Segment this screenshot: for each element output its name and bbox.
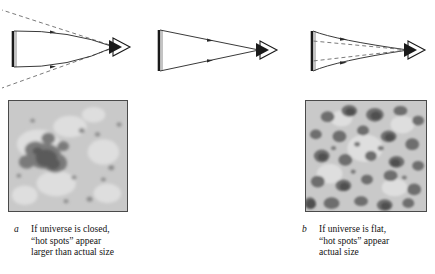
source-bar bbox=[312, 31, 315, 71]
caption-line: “hot spots” appear bbox=[31, 236, 114, 248]
ray-direction-arrow bbox=[340, 38, 347, 65]
dashed-apparent-ray-lower bbox=[313, 50, 408, 61]
source-bar bbox=[13, 31, 16, 67]
real-ray-upper bbox=[313, 31, 408, 50]
real-ray-lower bbox=[313, 50, 408, 71]
caption-a: a If universe is closed, “hot spots” app… bbox=[14, 224, 114, 259]
ray-direction-arrow bbox=[50, 30, 56, 68]
panel-group-c: c If universe is open, “hot spots” appea… bbox=[290, 0, 435, 274]
real-ray-upper bbox=[14, 31, 114, 47]
caption-line: If universe is closed, bbox=[31, 224, 114, 236]
caption-label-a: a bbox=[14, 224, 19, 236]
source-bar bbox=[159, 30, 162, 71]
ray-diagram-a bbox=[0, 0, 145, 96]
observer-eye bbox=[256, 41, 277, 59]
real-ray-lower bbox=[14, 47, 114, 67]
observer-eye bbox=[404, 41, 425, 59]
observer-eye bbox=[109, 38, 130, 56]
caption-line: larger than actual size bbox=[31, 247, 114, 259]
ray-diagram-c bbox=[290, 0, 435, 96]
panel-group-b: b If universe is flat, “hot spots” appea… bbox=[145, 0, 290, 274]
panel-group-a: a If universe is closed, “hot spots” app… bbox=[0, 0, 145, 274]
cmb-geometry-figure: a If universe is closed, “hot spots” app… bbox=[0, 0, 435, 274]
ray-direction-arrow bbox=[207, 38, 213, 62]
ray-diagram-b bbox=[145, 0, 290, 96]
cmb-field-a bbox=[8, 100, 128, 212]
cmb-image-a bbox=[8, 100, 128, 212]
